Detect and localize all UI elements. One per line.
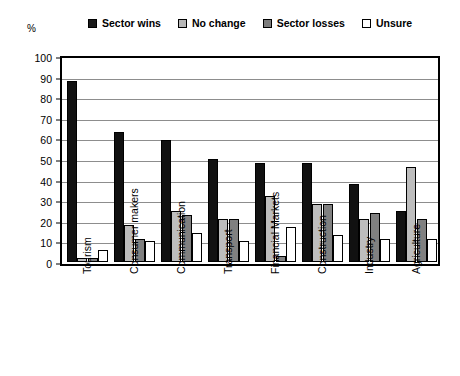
bar xyxy=(114,132,124,262)
legend-swatch-icon xyxy=(178,19,187,28)
bar xyxy=(427,239,437,262)
legend-item: Unsure xyxy=(362,18,412,29)
bar xyxy=(239,241,249,262)
bar xyxy=(135,239,145,262)
bar xyxy=(77,258,87,262)
bar xyxy=(98,250,108,262)
bar xyxy=(286,227,296,262)
bar-group xyxy=(346,60,393,262)
bar xyxy=(359,219,369,262)
legend-item: No change xyxy=(178,18,246,29)
bar xyxy=(145,241,155,262)
bar-group xyxy=(64,60,111,262)
bar xyxy=(208,159,218,262)
bar xyxy=(88,258,98,262)
bar xyxy=(255,163,265,262)
legend-swatch-icon xyxy=(362,19,371,28)
legend-item: Sector wins xyxy=(88,18,161,29)
bar xyxy=(67,81,77,262)
legend-item-label: Sector losses xyxy=(277,18,345,29)
legend-swatch-icon xyxy=(88,19,97,28)
bar xyxy=(182,215,192,262)
bar xyxy=(229,219,239,262)
bar xyxy=(124,225,134,262)
legend-item-label: Sector wins xyxy=(102,18,161,29)
y-axis-tick-label: 20 xyxy=(16,217,52,229)
bar xyxy=(417,219,427,262)
y-axis-tick-label: 70 xyxy=(16,114,52,126)
bar xyxy=(370,213,380,262)
legend-item-label: No change xyxy=(192,18,246,29)
y-axis-tick-label: 80 xyxy=(16,93,52,105)
bar xyxy=(396,211,406,263)
bar-group xyxy=(158,60,205,262)
bar xyxy=(333,235,343,262)
bar xyxy=(323,204,333,262)
plot-area xyxy=(60,56,440,266)
bar xyxy=(161,140,171,262)
bar xyxy=(349,184,359,262)
bar xyxy=(302,163,312,262)
bar xyxy=(218,219,228,262)
y-axis-tick-label: 90 xyxy=(16,73,52,85)
y-axis-tick-label: 60 xyxy=(16,134,52,146)
legend-swatch-icon xyxy=(263,19,272,28)
chart-legend: Sector winsNo changeSector lossesUnsure xyxy=(88,18,412,29)
bar-group xyxy=(252,60,299,262)
bar xyxy=(276,256,286,262)
y-axis-tick-label: 40 xyxy=(16,176,52,188)
y-axis-tick-label: 100 xyxy=(16,52,52,64)
bar xyxy=(406,167,416,262)
y-axis-tick-label: 0 xyxy=(16,258,52,270)
bar xyxy=(192,233,202,262)
bar-group xyxy=(299,60,346,262)
y-axis-tick-label: 50 xyxy=(16,155,52,167)
bar xyxy=(380,239,390,262)
bar xyxy=(312,204,322,262)
bar xyxy=(265,196,275,262)
bar-group xyxy=(111,60,158,262)
y-axis-unit-label: % xyxy=(27,23,36,34)
legend-item-label: Unsure xyxy=(376,18,412,29)
bar-groups xyxy=(64,60,436,262)
bar-chart: % Sector winsNo changeSector lossesUnsur… xyxy=(0,0,460,376)
y-axis-tick-label: 30 xyxy=(16,196,52,208)
bar-group xyxy=(205,60,252,262)
y-axis-tick-label: 10 xyxy=(16,237,52,249)
bar-group xyxy=(393,60,440,262)
bar xyxy=(171,211,181,263)
legend-item: Sector losses xyxy=(263,18,345,29)
